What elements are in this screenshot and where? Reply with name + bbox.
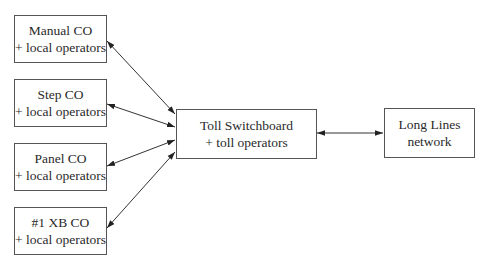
node-sublabel: + local operators [15, 167, 106, 184]
edge-manual-toll [107, 41, 175, 114]
edge-step-toll [107, 104, 175, 127]
node-long-lines-network: Long Lines network [384, 108, 475, 158]
node-step-co: Step CO + local operators [14, 79, 107, 127]
node-label: Manual CO [29, 22, 92, 39]
node-sublabel: + toll operators [205, 134, 288, 151]
node-sublabel: + local operators [15, 231, 106, 248]
node-label: Panel CO [34, 150, 86, 167]
node-label: Step CO [37, 86, 83, 103]
node-label: Toll Switchboard [200, 117, 293, 134]
node-sublabel: + local operators [15, 103, 106, 120]
node-manual-co: Manual CO + local operators [14, 15, 107, 63]
edge-panel-toll [107, 140, 175, 166]
edge-xb-toll [107, 152, 175, 228]
node-label: #1 XB CO [32, 214, 90, 231]
node-label: Long Lines [399, 116, 461, 133]
node-panel-co: Panel CO + local operators [14, 143, 107, 191]
node-toll-switchboard: Toll Switchboard + toll operators [176, 109, 317, 159]
node-sublabel: network [407, 133, 451, 150]
node-xb-co: #1 XB CO + local operators [14, 207, 107, 255]
node-sublabel: + local operators [15, 39, 106, 56]
